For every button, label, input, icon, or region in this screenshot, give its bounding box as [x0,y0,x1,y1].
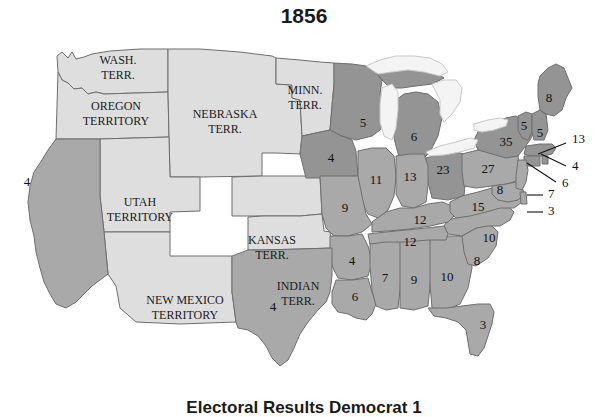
delaware-shape [520,192,527,204]
electoral-votes-pennsylvania: 27 [482,161,496,176]
electoral-votes-north-carolina: 10 [483,230,496,245]
electoral-votes-ohio: 23 [437,162,450,177]
electoral-votes-louisiana: 6 [352,289,359,304]
territory-label-line2: TERRITORY [107,210,174,224]
electoral-votes-vermont: 5 [521,118,528,133]
electoral-votes-florida: 3 [480,317,487,332]
territory-label-line2: TERR. [288,98,322,112]
electoral-votes-maine: 8 [546,90,553,105]
electoral-votes-texas: 4 [270,299,277,314]
territory-label-line1: NEBRASKA [193,107,258,121]
territory-label-line1: MINN. [288,83,323,97]
electoral-votes-connecticut: 6 [562,175,569,190]
electoral-votes-iowa: 4 [328,150,335,165]
territory-label-line1: NEW MEXICO [146,293,224,307]
territory-label-line2: TERR. [208,122,242,136]
territory-label-line2: TERR. [255,248,289,262]
electoral-map-page: 1856 [0,0,608,417]
electoral-votes-illinois: 11 [370,172,383,187]
electoral-votes-new-york: 35 [500,134,513,149]
lake-michigan-shape [380,84,398,140]
electoral-votes-rhode-island: 4 [572,158,579,173]
leader-line-connecticut [527,163,556,182]
territory-label-minnesota-territory: MINN.TERR. [288,83,323,112]
electoral-votes-maryland: 8 [497,182,504,197]
electoral-votes-massachusetts: 13 [572,131,585,146]
territory-label-line2: TERRITORY [152,308,219,322]
page-title: 1856 [0,4,608,28]
electoral-votes-arkansas: 4 [349,253,356,268]
territory-label-line1: INDIAN [277,279,320,293]
territory-label-line2: TERR. [101,68,135,82]
territory-label-line1: OREGON [91,99,141,113]
new-jersey-shape [516,160,528,190]
territory-label-line1: KANSAS [248,233,296,247]
electoral-votes-new-hampshire: 5 [537,125,544,140]
electoral-votes-missouri: 9 [342,200,349,215]
electoral-votes-kentucky: 12 [414,212,427,227]
massachusetts-shape [524,144,556,156]
electoral-votes-delaware: 3 [548,203,555,218]
electoral-votes-michigan: 6 [411,129,418,144]
electoral-votes-indiana: 13 [404,169,417,184]
electoral-votes-tennessee: 12 [404,234,417,249]
territory-label-line1: UTAH [124,195,157,209]
us-electoral-map: WASH.TERR.OREGONTERRITORYNEBRASKATERR.MI… [0,36,608,386]
territory-label-kansas-territory: KANSASTERR. [248,233,296,262]
callout-layer: 134673 [527,131,585,218]
kansas-territory-shape [232,176,322,216]
territory-label-line2: TERRITORY [83,114,150,128]
electoral-votes-wisconsin: 5 [360,115,367,130]
electoral-votes-virginia: 15 [472,199,485,214]
electoral-votes-georgia: 10 [441,269,454,284]
electoral-votes-south-carolina: 8 [474,253,481,268]
territory-label-new-mexico-territory: NEW MEXICOTERRITORY [146,293,224,322]
territory-label-line1: WASH. [99,53,136,67]
maine-shape [538,64,572,116]
territory-label-indian-territory: INDIANTERR. [277,279,320,308]
territory-label-line2: TERR. [281,294,315,308]
electoral-votes-new-jersey: 7 [548,186,555,201]
footer-caption: Electoral Results Democrat 1 [0,398,608,417]
electoral-votes-california: 4 [24,174,31,189]
territory-label-oregon-territory: OREGONTERRITORY [83,99,150,128]
electoral-votes-mississippi: 7 [382,270,389,285]
california-shape [28,139,108,308]
electoral-votes-alabama: 9 [411,272,418,287]
territory-label-washington-territory: WASH.TERR. [99,53,136,82]
